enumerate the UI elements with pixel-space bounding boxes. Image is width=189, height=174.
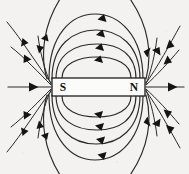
arrowhead-right-5 <box>166 125 175 135</box>
field-line-right-4 <box>146 89 179 124</box>
field-line-left-4 <box>11 89 51 127</box>
arrowhead-right-3 <box>152 47 161 56</box>
arrowhead-lower-1 <box>144 117 151 127</box>
field-line-upper-1 <box>128 0 149 79</box>
bar-magnet: S N <box>52 78 145 96</box>
arrowhead-axis-right <box>168 83 178 92</box>
arrowhead-axis-left <box>29 83 39 92</box>
field-line-left-1 <box>7 22 51 83</box>
south-pole-label: S <box>60 81 66 93</box>
arrowhead-right-6 <box>152 119 161 128</box>
field-lines-right-pole <box>146 26 184 148</box>
field-line-lower-5 <box>56 95 136 130</box>
field-line-left-2 <box>11 47 51 85</box>
field-line-lower-1 <box>128 95 149 174</box>
field-line-upper-5 <box>56 44 136 79</box>
field-lines-lower <box>41 95 151 174</box>
arrowhead-upper-1 <box>144 48 151 58</box>
field-line-left-5 <box>7 91 51 152</box>
field-line-right-2 <box>146 50 179 85</box>
field-lines-upper <box>41 0 151 79</box>
north-pole-label: N <box>130 81 139 93</box>
field-diagram-svg: S N <box>0 0 189 174</box>
arrowhead-right-1 <box>166 40 175 50</box>
bar-magnet-field-diagram: S N <box>0 0 189 174</box>
